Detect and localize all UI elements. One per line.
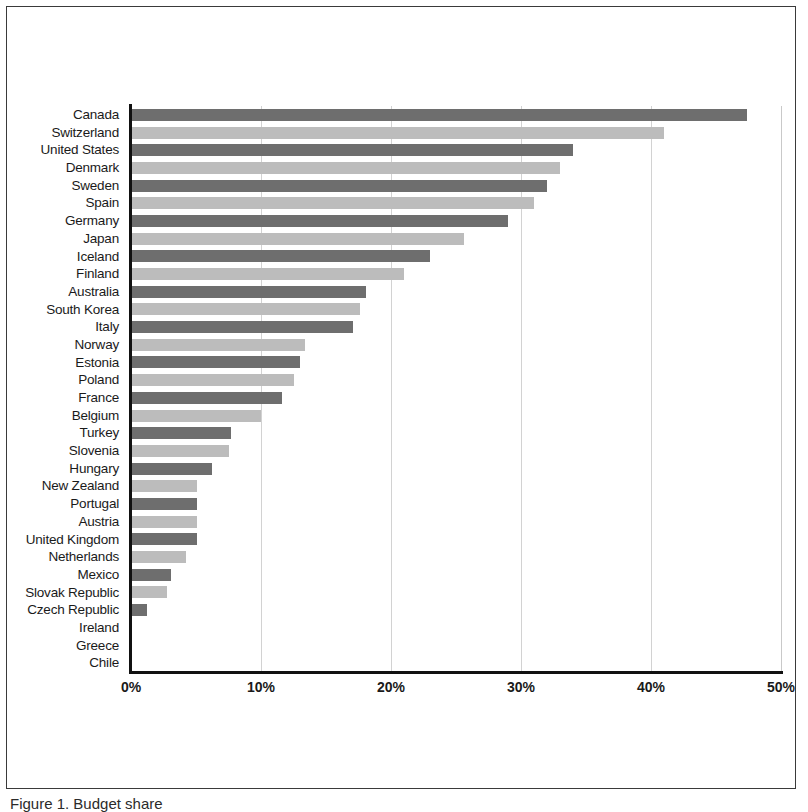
x-axis-line [129,671,783,674]
bar-row [131,389,781,407]
y-axis-label: South Korea [46,301,119,319]
bar [131,480,197,492]
y-axis-label: United Kingdom [26,531,119,549]
y-axis-label: Mexico [77,566,119,584]
bar-row [131,407,781,425]
y-axis-label: Denmark [66,159,119,177]
x-axis-tick-labels: 0%10%20%30%40%50% [131,679,781,705]
bar [131,180,547,192]
bar-row [131,442,781,460]
y-axis-label: Chile [89,654,119,672]
bar [131,144,573,156]
y-axis-label: Portugal [70,495,119,513]
y-axis-label: Australia [68,283,119,301]
bar-row [131,495,781,513]
bar [131,410,261,422]
y-axis-label: Turkey [79,424,119,442]
bar-row [131,301,781,319]
bar [131,463,212,475]
y-axis-label: Sweden [71,177,119,195]
y-axis-label: Italy [95,318,119,336]
bar-row [131,230,781,248]
bar-series [131,106,781,672]
bar [131,339,305,351]
x-axis-tick-label: 10% [247,679,275,695]
x-axis-tick-label: 30% [507,679,535,695]
bar [131,586,167,598]
bar [131,127,664,139]
y-axis-label: Germany [65,212,119,230]
bar-row [131,141,781,159]
x-axis-tick-label: 20% [377,679,405,695]
bar [131,215,508,227]
bar-row [131,460,781,478]
bar [131,250,430,262]
y-axis-label: Hungary [69,460,119,478]
bar-row [131,283,781,301]
bar [131,498,197,510]
bar-row [131,584,781,602]
bar-row [131,318,781,336]
bar [131,303,360,315]
bar-row [131,248,781,266]
bar-row [131,106,781,124]
y-axis-line [129,104,132,674]
bar [131,109,747,121]
y-axis-label: Switzerland [51,124,119,142]
bar [131,356,300,368]
bar [131,197,534,209]
y-axis-label: Poland [78,371,119,389]
bar [131,392,282,404]
bar-row [131,566,781,584]
y-axis-label: Iceland [77,248,119,266]
bar [131,604,147,616]
plot-area [131,106,781,672]
y-axis-label: United States [41,141,119,159]
bar-row [131,354,781,372]
bar-chart: CanadaSwitzerlandUnited StatesDenmarkSwe… [7,7,797,790]
y-axis-label: Austria [78,513,119,531]
bar-row [131,619,781,637]
bar [131,569,171,581]
y-axis-label: Slovak Republic [25,584,119,602]
bar-row [131,371,781,389]
bar [131,268,404,280]
y-axis-label: Ireland [79,619,119,637]
y-axis-label: France [78,389,119,407]
x-axis-tick-label: 50% [767,679,795,695]
bar-row [131,194,781,212]
bar [131,321,353,333]
bar-row [131,637,781,655]
bar-row [131,159,781,177]
y-axis-label: Canada [73,106,119,124]
bar [131,374,294,386]
bar-row [131,212,781,230]
bar-row [131,336,781,354]
bar [131,286,366,298]
bar-row [131,424,781,442]
y-axis-label: Japan [83,230,119,248]
bar-row [131,265,781,283]
figure-caption: Figure 1. Budget share [10,795,163,812]
y-axis-label: Netherlands [48,548,119,566]
y-axis-label: Greece [76,637,119,655]
bar-row [131,477,781,495]
x-axis-tick-label: 0% [121,679,141,695]
y-axis-category-labels: CanadaSwitzerlandUnited StatesDenmarkSwe… [7,106,125,672]
figure-frame: CanadaSwitzerlandUnited StatesDenmarkSwe… [6,6,796,789]
bar-row [131,531,781,549]
bar-row [131,177,781,195]
y-axis-label: Czech Republic [27,601,119,619]
bar [131,516,197,528]
y-axis-label: Spain [85,194,119,212]
gridline-50pct [781,106,782,672]
bar-row [131,548,781,566]
bar [131,427,231,439]
bar [131,162,560,174]
bar-row [131,124,781,142]
x-axis-tick-label: 40% [637,679,665,695]
bar [131,233,464,245]
y-axis-label: Finland [76,265,119,283]
y-axis-label: Belgium [72,407,119,425]
bar-row [131,513,781,531]
